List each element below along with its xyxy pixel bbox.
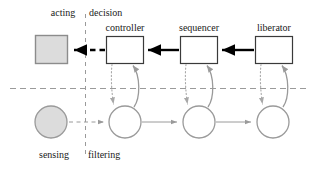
actuator-square [36,36,68,64]
label-sensing: sensing [39,150,69,160]
label-sequencer: sequencer [179,23,219,33]
label-acting: acting [51,8,75,18]
controller-circle [109,106,141,138]
box-to-circle-arrow-liberator [260,65,262,105]
box-to-circle-arrow-sequencer [185,65,187,105]
label-controller: controller [106,23,145,33]
liberator-circle [257,106,289,138]
label-filtering: filtering [88,150,120,160]
sensor-circle [35,106,67,138]
box-to-circle-arrow-controller [111,65,113,105]
sequencer-box [181,37,218,64]
circle-to-box-arrow-liberator [282,66,288,108]
sequencer-circle [183,106,215,138]
liberator-box [256,37,293,64]
label-liberator: liberator [257,23,291,33]
diagram-canvas: acting decision controller sequencer lib… [0,0,312,169]
controller-box [107,37,144,64]
label-decision: decision [89,8,122,18]
circle-to-box-arrow-controller [133,66,139,108]
circle-to-box-arrow-sequencer [207,66,213,108]
